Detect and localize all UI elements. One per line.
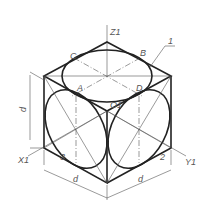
- label-d: D: [136, 83, 143, 93]
- label-o: O1: [110, 100, 122, 110]
- isometric-cube-diagram: Z1 X1 Y1 C B A D O1 1 2 3 d d d: [0, 0, 206, 222]
- label-z: Z1: [109, 27, 121, 37]
- label-1: 1: [168, 36, 173, 46]
- label-d-left: d: [73, 174, 79, 184]
- label-2: 2: [159, 152, 165, 162]
- label-a: A: [76, 83, 83, 93]
- label-b: B: [140, 48, 146, 58]
- label-c: C: [70, 51, 77, 61]
- label-d-vertical: d: [18, 106, 28, 112]
- leader-1: [150, 46, 165, 67]
- dim-ext: [30, 72, 44, 80]
- construction-line: [44, 111, 107, 148]
- label-3: 3: [60, 152, 65, 162]
- label-y: Y1: [185, 157, 196, 167]
- axis-line: [74, 58, 142, 96]
- label-x: X1: [17, 155, 29, 165]
